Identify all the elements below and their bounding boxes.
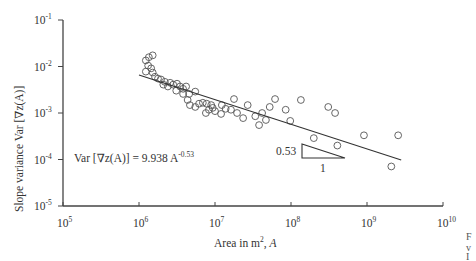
data-point bbox=[334, 142, 341, 149]
data-point bbox=[297, 97, 304, 104]
data-point bbox=[234, 110, 241, 117]
x-tick-label: 109 bbox=[361, 215, 377, 229]
x-tick-label: 106 bbox=[133, 215, 149, 229]
y-tick-label: 10-5 bbox=[34, 198, 52, 212]
cropped-caption-text: I bbox=[466, 252, 469, 261]
slope-run-label: 1 bbox=[320, 162, 326, 174]
y-tick-label: 10-4 bbox=[34, 152, 52, 166]
data-point bbox=[361, 132, 368, 139]
scatter-chart: 1051061071081091010 10-110-210-310-410-5… bbox=[0, 0, 476, 261]
axes bbox=[63, 20, 443, 206]
y-tick-label: 10-3 bbox=[34, 105, 52, 119]
x-tick-label: 108 bbox=[285, 215, 301, 229]
x-tick-label: 105 bbox=[57, 215, 73, 229]
data-point bbox=[395, 132, 402, 139]
data-point bbox=[240, 115, 247, 122]
fit-line bbox=[139, 75, 401, 160]
slope-rise-label: 0.53 bbox=[276, 145, 296, 157]
data-point bbox=[388, 163, 395, 170]
data-point bbox=[231, 96, 238, 103]
y-tick-label: 10-1 bbox=[34, 12, 52, 26]
slope-triangle: 0.531 bbox=[276, 144, 345, 174]
data-point bbox=[266, 104, 273, 111]
data-point bbox=[142, 68, 149, 75]
data-point bbox=[310, 135, 317, 142]
data-point bbox=[272, 96, 279, 103]
x-axis-label: Area in m2, A bbox=[214, 235, 277, 250]
data-point bbox=[282, 106, 289, 113]
data-point bbox=[149, 69, 156, 76]
data-point bbox=[332, 110, 339, 117]
data-point bbox=[256, 122, 263, 129]
y-tick-label: 10-2 bbox=[34, 59, 52, 73]
x-tick-label: 107 bbox=[209, 215, 225, 229]
equation-label: Var [∇z(A)] = 9.938 A-0.53 bbox=[74, 150, 194, 165]
data-point bbox=[325, 104, 332, 111]
y-axis-ticks: 10-110-210-310-410-5 bbox=[34, 12, 63, 212]
data-point bbox=[244, 102, 251, 109]
data-point bbox=[263, 117, 270, 124]
cropped-caption-text: F bbox=[466, 232, 472, 242]
x-tick-label: 1010 bbox=[437, 215, 456, 229]
y-axis-label: Slope variance Var [∇z(A)] bbox=[13, 86, 26, 212]
